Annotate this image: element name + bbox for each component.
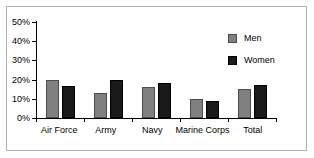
bar-men: [190, 99, 203, 118]
bar-group: [84, 22, 132, 118]
bar-men: [142, 87, 155, 118]
x-axis-category-label: Navy: [129, 124, 176, 138]
legend-label-women: Women: [244, 56, 275, 65]
bar-women: [206, 101, 219, 118]
x-axis-line: [36, 118, 277, 119]
bar-group: [36, 22, 84, 118]
y-axis-tick-label: 40%: [0, 35, 30, 47]
x-tick-mark: [84, 118, 85, 122]
bar-chart-figure: 0%10%20%30%40%50% Air ForceArmyNavyMarin…: [0, 0, 314, 158]
y-axis-tick-label: 0%: [0, 112, 30, 124]
x-axis-category-label: Marine Corps: [176, 124, 230, 138]
legend-swatch-women-icon: [228, 56, 237, 65]
x-tick-mark: [228, 118, 229, 122]
bar-group: [132, 22, 180, 118]
x-tick-mark: [180, 118, 181, 122]
x-axis-labels: Air ForceArmyNavyMarine CorpsTotal: [36, 124, 276, 138]
x-tick-mark: [36, 118, 37, 122]
legend-item-men: Men: [228, 30, 306, 46]
bar-men: [238, 89, 251, 118]
x-axis-category-label: Total: [230, 124, 277, 138]
bar-women: [110, 80, 123, 118]
bar-women: [62, 86, 75, 118]
y-axis-tick-label: 10%: [0, 93, 30, 105]
bar-women: [158, 83, 171, 118]
bar-group: [180, 22, 228, 118]
bar-men: [46, 80, 59, 118]
x-tick-mark: [276, 118, 277, 122]
chart-legend: Men Women: [228, 30, 306, 74]
legend-label-men: Men: [244, 34, 262, 43]
x-axis-category-label: Army: [83, 124, 130, 138]
x-axis-category-label: Air Force: [36, 124, 83, 138]
y-axis-tick-label: 20%: [0, 74, 30, 86]
y-axis-tick-label: 30%: [0, 54, 30, 66]
bar-men: [94, 93, 107, 118]
legend-swatch-men-icon: [228, 34, 237, 43]
x-tick-mark: [132, 118, 133, 122]
y-axis-tick-label: 50%: [0, 16, 30, 28]
legend-item-women: Women: [228, 52, 306, 68]
bar-women: [254, 85, 267, 118]
